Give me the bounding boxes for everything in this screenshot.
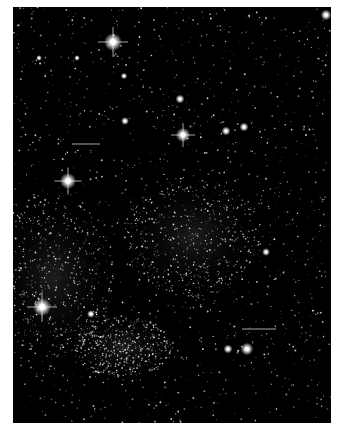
star-field-photo — [13, 7, 331, 423]
star-field — [13, 7, 331, 423]
